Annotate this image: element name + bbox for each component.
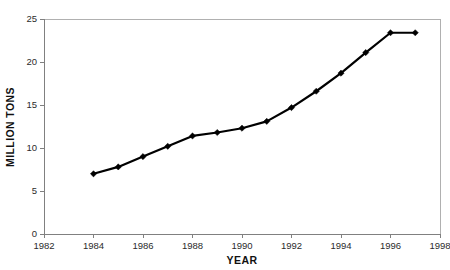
x-tick-label: 1988 xyxy=(182,240,203,251)
y-tick-label: 5 xyxy=(32,185,37,196)
data-point-marker xyxy=(412,30,418,36)
data-point-marker xyxy=(189,133,195,139)
x-tick-label: 1994 xyxy=(330,240,351,251)
x-axis-ticks: 198219841986198819901992199419961998 xyxy=(33,234,450,251)
y-tick-label: 10 xyxy=(26,142,37,153)
chart-container: 0510152025 19821984198619881990199219941… xyxy=(0,0,450,270)
data-point-marker xyxy=(140,154,146,160)
data-point-marker xyxy=(214,129,220,135)
x-tick-label: 1990 xyxy=(231,240,252,251)
data-point-marker xyxy=(239,125,245,131)
x-tick-label: 1996 xyxy=(380,240,401,251)
series-markers-group xyxy=(90,30,418,177)
data-point-marker xyxy=(115,164,121,170)
x-tick-label: 1992 xyxy=(281,240,302,251)
data-point-marker xyxy=(165,143,171,149)
data-series-group xyxy=(90,30,418,177)
data-point-marker xyxy=(90,171,96,177)
line-chart: 0510152025 19821984198619881990199219941… xyxy=(0,0,450,270)
x-tick-label: 1998 xyxy=(429,240,450,251)
x-tick-label: 1986 xyxy=(132,240,153,251)
y-axis-ticks: 0510152025 xyxy=(26,13,44,239)
y-axis-title: MILLION TONS xyxy=(4,87,16,167)
x-tick-label: 1982 xyxy=(33,240,54,251)
x-axis-title: YEAR xyxy=(227,254,258,266)
y-tick-label: 0 xyxy=(32,228,37,239)
y-tick-label: 15 xyxy=(26,99,37,110)
y-tick-label: 25 xyxy=(26,13,37,24)
x-tick-label: 1984 xyxy=(83,240,104,251)
y-tick-label: 20 xyxy=(26,56,37,67)
